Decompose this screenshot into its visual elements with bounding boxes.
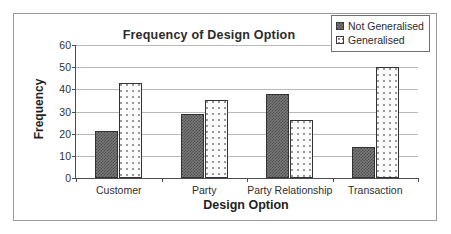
legend-swatch-generalised-icon [336, 36, 344, 44]
legend-label-not-generalised: Not Generalised [348, 20, 424, 32]
chart-legend: Not Generalised Generalised [331, 15, 430, 52]
x-tick-label: Party Relationship [247, 184, 332, 196]
x-tick-label: Transaction [348, 184, 402, 196]
x-tick-label: Party [192, 184, 217, 196]
y-tick-label: 20 [59, 128, 71, 140]
x-axis-title: Design Option [75, 198, 417, 212]
x-tick-mark [333, 178, 334, 182]
bar[interactable] [181, 114, 204, 178]
x-tick-mark [418, 178, 419, 182]
x-tick-mark [162, 178, 163, 182]
x-tick-label: Customer [96, 184, 142, 196]
category-group: Party [162, 45, 248, 178]
bar[interactable] [352, 147, 375, 178]
category-group: Party Relationship [247, 45, 333, 178]
y-tick-label: 10 [59, 150, 71, 162]
plot-area: 0102030405060CustomerPartyParty Relation… [75, 45, 418, 179]
y-tick-label: 50 [59, 61, 71, 73]
y-tick-label: 40 [59, 83, 71, 95]
bar[interactable] [266, 94, 289, 178]
bar[interactable] [119, 83, 142, 178]
legend-swatch-not-generalised-icon [336, 22, 344, 30]
bar[interactable] [376, 67, 399, 178]
bar[interactable] [290, 120, 313, 178]
y-tick-label: 30 [59, 106, 71, 118]
category-group: Customer [76, 45, 162, 178]
y-axis-title: Frequency [32, 64, 46, 154]
bar[interactable] [205, 100, 228, 178]
bar[interactable] [95, 131, 118, 178]
chart-title: Frequency of Design Option [74, 28, 344, 42]
x-tick-mark [247, 178, 248, 182]
chart-frame: Frequency of Design Option Frequency 010… [13, 13, 437, 221]
y-tick-label: 60 [59, 39, 71, 51]
category-group: Transaction [333, 45, 419, 178]
x-tick-mark [76, 178, 77, 182]
legend-item-not-generalised[interactable]: Not Generalised [336, 19, 424, 33]
legend-label-generalised: Generalised [348, 34, 405, 46]
legend-item-generalised[interactable]: Generalised [336, 33, 424, 47]
y-tick-label: 0 [65, 172, 71, 184]
